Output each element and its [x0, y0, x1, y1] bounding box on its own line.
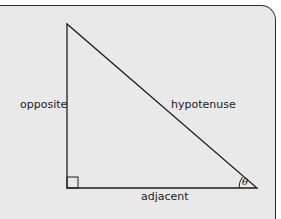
hypotenuse-label: hypotenuse [171, 98, 236, 111]
opposite-label: opposite [20, 98, 67, 111]
theta-label: θ [242, 176, 248, 187]
right-angle-marker [67, 177, 78, 188]
adjacent-label: adjacent [141, 190, 189, 203]
